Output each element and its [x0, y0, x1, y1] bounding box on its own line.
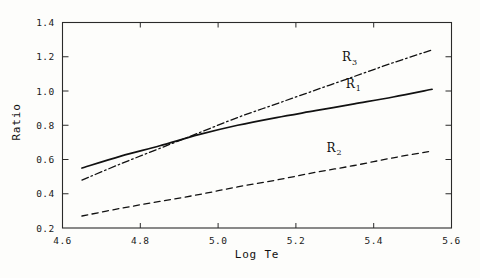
y-axis-title: Ratio [10, 103, 23, 140]
y-tick-label: 1.0 [36, 86, 54, 97]
ratio-vs-logte-plot: 4.64.85.05.25.45.6 0.20.40.60.81.01.21.4… [0, 0, 480, 278]
curve-label-subscript: 3 [352, 58, 357, 67]
y-tick-label: 0.8 [36, 120, 54, 131]
x-tick-label: 4.6 [53, 235, 71, 246]
curve-label-subscript: 1 [356, 84, 361, 93]
x-axis-title: Log Te [235, 248, 280, 261]
x-tick-label: 5.0 [209, 235, 227, 246]
figure-background [0, 0, 480, 278]
x-tick-label: 5.2 [287, 235, 305, 246]
y-tick-label: 1.4 [36, 17, 54, 28]
x-tick-label: 5.6 [442, 235, 460, 246]
curve-label-base: R [342, 50, 352, 64]
curve-label-base: R [346, 77, 356, 91]
y-tick-label: 0.2 [36, 223, 54, 234]
curve-label-base: R [326, 141, 336, 155]
y-tick-label: 0.4 [36, 188, 54, 199]
y-tick-label: 1.2 [36, 51, 54, 62]
y-tick-label: 0.6 [36, 154, 54, 165]
x-tick-label: 5.4 [365, 235, 383, 246]
curve-label-subscript: 2 [336, 148, 341, 157]
x-tick-label: 4.8 [131, 235, 149, 246]
